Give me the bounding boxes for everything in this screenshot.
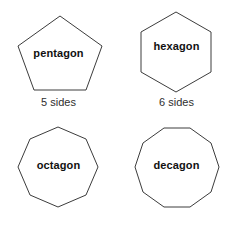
hexagon-outline (141, 12, 211, 92)
shape-cell-pentagon: pentagon 5 sides (0, 0, 117, 117)
shape-cell-octagon: octagon 8 sides (0, 117, 117, 234)
pentagon-sides-caption: 5 sides (0, 96, 117, 109)
octagon-label: octagon (0, 159, 117, 171)
octagon-shape-container: octagon (0, 117, 117, 212)
polygon-chart: pentagon 5 sides hexagon 6 sides octagon… (0, 0, 235, 234)
shape-cell-hexagon: hexagon 6 sides (118, 0, 235, 117)
hexagon-sides-caption: 6 sides (118, 96, 235, 109)
pentagon-label: pentagon (0, 47, 117, 59)
decagon-shape-container: decagon (118, 117, 235, 212)
shape-cell-decagon: decagon 10 sides (118, 117, 235, 234)
hexagon-label: hexagon (118, 40, 235, 52)
pentagon-shape-container: pentagon (0, 0, 117, 95)
hexagon-shape-container: hexagon (118, 0, 235, 95)
decagon-label: decagon (118, 159, 235, 171)
